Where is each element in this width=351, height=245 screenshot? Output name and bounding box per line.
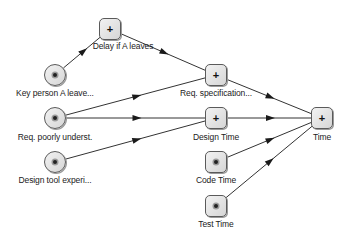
node-label: Req. specification...	[180, 88, 252, 98]
dot-icon	[45, 152, 65, 172]
node-label: Code Time	[196, 175, 236, 185]
arrowhead-icon	[132, 94, 141, 100]
dot-icon	[45, 65, 65, 85]
node-label: Delay if A leaves	[93, 41, 154, 51]
node-label: Design Time	[193, 132, 239, 142]
node-designtime[interactable]: +	[205, 107, 227, 129]
node-label: Time	[313, 132, 331, 142]
arrowhead-icon	[133, 115, 142, 121]
edges-layer	[63, 33, 313, 199]
node-reqspec[interactable]: +	[205, 64, 227, 86]
arrowhead-icon	[265, 138, 274, 144]
arrowhead-icon	[159, 48, 168, 54]
node-designtool[interactable]	[44, 151, 66, 173]
dot-icon	[45, 108, 65, 128]
node-label: Design tool experi...	[18, 175, 91, 185]
node-keyperson[interactable]	[44, 64, 66, 86]
arrowhead-icon	[265, 93, 274, 99]
arrowhead-icon	[132, 138, 141, 144]
node-codetime[interactable]	[205, 151, 227, 173]
node-time[interactable]: +	[311, 107, 333, 129]
plus-icon: +	[206, 65, 226, 85]
dot-icon	[206, 152, 226, 172]
dot-icon	[206, 196, 226, 216]
node-delay[interactable]: +	[99, 18, 121, 40]
node-label: Req. poorly underst.	[18, 132, 93, 142]
node-label: Key person A leave...	[16, 88, 94, 98]
plus-icon: +	[100, 19, 120, 39]
arrowhead-icon	[266, 115, 275, 121]
plus-icon: +	[312, 108, 332, 128]
node-label: Test Time	[198, 219, 233, 229]
plus-icon: +	[206, 108, 226, 128]
node-testtime[interactable]	[205, 195, 227, 217]
node-reqpoor[interactable]	[44, 107, 66, 129]
